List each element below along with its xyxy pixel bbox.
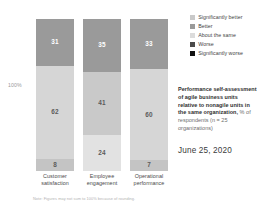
bar-segment-value: 33 (145, 41, 152, 47)
publication-date: June 25, 2020 (178, 146, 232, 155)
legend-swatch-icon (190, 24, 195, 29)
y-axis-top-label: 100% (8, 82, 22, 88)
category-label: Operational performance (130, 173, 168, 188)
legend-item: Significantly better (190, 13, 259, 22)
bar-column: 31628 (36, 19, 74, 171)
legend-label: Significantly worse (198, 51, 243, 56)
bar-stack: 354124 (83, 19, 121, 171)
bar-segment-value: 35 (98, 42, 105, 48)
legend-item: Better (190, 22, 259, 31)
category-axis-labels: Customer satisfactionEmployee engagement… (36, 173, 176, 188)
bar-column: 354124 (83, 19, 121, 171)
legend-item: Worse (190, 40, 259, 49)
legend-item: About the same (190, 31, 259, 40)
bar-segment-value: 41 (98, 100, 105, 106)
category-label: Employee engagement (83, 173, 121, 188)
legend-label: About the same (198, 33, 236, 38)
chart-page: 100% 3162835412433607 Customer satisfact… (0, 0, 259, 213)
legend-label: Significantly better (198, 15, 242, 20)
bar-segment-value: 62 (51, 109, 58, 115)
bar-segment: 24 (83, 135, 121, 171)
bar-segment-value: 24 (98, 150, 105, 156)
legend-item: Significantly worse (190, 49, 259, 58)
bar-segment: 62 (36, 66, 74, 159)
bar-segment: 33 (130, 19, 168, 69)
bar-segment: 7 (130, 160, 168, 171)
bar-segment: 60 (130, 69, 168, 160)
bar-segment-value: 7 (147, 162, 151, 168)
chart-footnote: Note: Figures may not sum to 100% becaus… (33, 196, 135, 201)
bar-segment: 31 (36, 19, 74, 66)
bar-segment-value: 8 (53, 162, 57, 168)
bar-stack: 33607 (130, 19, 168, 171)
chart-description: Performance self-assessment of agile bus… (178, 86, 257, 133)
legend-swatch-icon (190, 33, 195, 38)
bar-segment-value: 31 (51, 39, 58, 45)
legend-swatch-icon (190, 42, 195, 47)
bar-segment: 35 (83, 19, 121, 72)
legend-label: Better (198, 24, 212, 29)
chart-side-panel: Significantly betterBetterAbout the same… (178, 0, 259, 213)
bar-segment: 8 (36, 159, 74, 171)
stacked-bar-chart: 100% 3162835412433607 Customer satisfact… (0, 0, 178, 213)
bar-stack: 31628 (36, 19, 74, 171)
legend-label: Worse (198, 42, 213, 47)
bar-segment: 41 (83, 72, 121, 134)
bar-segment-value: 60 (145, 112, 152, 118)
legend-swatch-icon (190, 15, 195, 20)
category-label: Customer satisfaction (36, 173, 74, 188)
legend-swatch-icon (190, 51, 195, 56)
bar-group: 3162835412433607 (36, 19, 176, 171)
bar-column: 33607 (130, 19, 168, 171)
chart-legend: Significantly betterBetterAbout the same… (190, 13, 259, 58)
